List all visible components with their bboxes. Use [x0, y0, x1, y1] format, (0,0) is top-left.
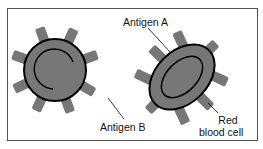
label-antigen-b: Antigen B — [100, 121, 146, 133]
label-blood-cell: blood cell — [199, 126, 243, 138]
label-red: Red — [213, 114, 243, 126]
cell-body — [24, 39, 86, 101]
label-antigen-a: Antigen A — [123, 16, 168, 28]
